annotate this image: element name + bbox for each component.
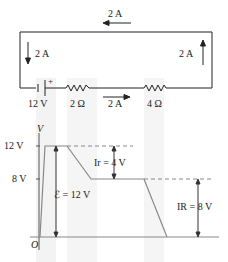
current-left-label: 2 A [35, 48, 50, 59]
tick-8v: 8 V [12, 173, 27, 184]
arrow-right-icon [124, 95, 130, 100]
battery-plus: + [48, 76, 53, 86]
current-right-label: 2 A [179, 48, 194, 59]
IR-label: IR = 8 V [177, 201, 213, 212]
current-top-label: 2 A [108, 8, 123, 19]
emf-label: ℰ = 12 V [54, 189, 91, 200]
tick-12v: 12 V [4, 140, 24, 151]
arrow-down-icon [26, 58, 31, 64]
battery-label: 12 V [28, 98, 48, 109]
r-external-label: 4 Ω [147, 98, 162, 109]
origin-label: O [31, 239, 38, 250]
arrow-up-icon [201, 40, 206, 46]
r-internal-label: 2 Ω [70, 98, 85, 109]
current-bottom-label: 2 A [108, 98, 123, 109]
ir-label: Ir = 4 V [94, 157, 127, 168]
circuit-potential-diagram: + 2 A 2 A 2 A 2 A 12 V 2 Ω 4 Ω V O 12 V … [0, 0, 228, 262]
arrow-left-icon [103, 21, 109, 26]
